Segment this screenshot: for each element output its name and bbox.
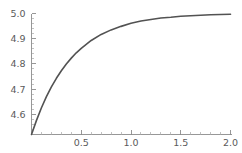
data-curve-line: [32, 14, 231, 134]
y-tick-label: 4.7: [10, 84, 25, 95]
chart-container: 0.51.01.52.0 4.64.74.84.95.0: [0, 0, 242, 153]
y-tick-label: 5.0: [10, 8, 25, 19]
x-axis-tick-labels: 0.51.01.52.0: [74, 137, 238, 148]
y-axis-tick-labels: 4.64.74.84.95.0: [10, 8, 25, 120]
x-axis-major-ticks: [81, 130, 230, 135]
plot-area: 0.51.01.52.0 4.64.74.84.95.0: [0, 0, 242, 153]
y-tick-label: 4.8: [10, 58, 25, 69]
y-tick-label: 4.6: [10, 109, 25, 120]
x-tick-label: 2.0: [223, 137, 238, 148]
series-group: [32, 14, 231, 134]
axes-group: [32, 14, 232, 135]
x-tick-label: 1.0: [123, 137, 138, 148]
x-tick-label: 0.5: [74, 137, 89, 148]
y-tick-label: 4.9: [10, 33, 25, 44]
x-tick-label: 1.5: [173, 137, 188, 148]
